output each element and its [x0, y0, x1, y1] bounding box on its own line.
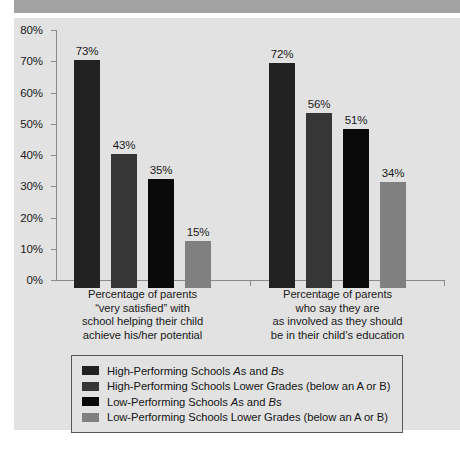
legend-item-label: Low-Performing Schools Lower Grades (bel…	[107, 411, 388, 423]
category-label-line: “very satisfied” with	[52, 302, 233, 316]
bar-value-label: 73%	[76, 45, 99, 57]
x-axis-tick	[250, 280, 251, 286]
y-axis-tick-label: 70%	[20, 55, 43, 67]
bar-value-label: 72%	[271, 48, 294, 60]
y-axis-tick-label: 10%	[20, 243, 43, 255]
bar: 73%	[74, 60, 100, 288]
y-axis-tick-label: 50%	[20, 118, 43, 130]
bar-value-label: 34%	[382, 167, 405, 179]
bar-value-label: 43%	[113, 139, 136, 151]
y-axis-tick: 20%	[51, 218, 56, 219]
bar-value-label: 56%	[308, 98, 331, 110]
legend-swatch	[82, 397, 99, 406]
y-axis-tick: 80%	[51, 30, 56, 31]
legend-swatch	[82, 366, 99, 375]
legend-item[interactable]: High-Performing Schools As and Bs	[82, 363, 394, 379]
category-label-line: achieve his/her potential	[52, 329, 233, 343]
bar: 51%	[343, 129, 369, 288]
bar: 35%	[148, 179, 174, 288]
y-axis-tick: 0%	[51, 280, 56, 281]
bar: 15%	[185, 241, 211, 288]
bar: 56%	[306, 113, 332, 288]
chart-panel: 0%10%20%30%40%50%60%70%80% 73%43%35%15%7…	[14, 18, 460, 430]
y-axis-tick: 10%	[51, 249, 56, 250]
y-axis-tick-label: 40%	[20, 149, 43, 161]
category-label-line: who say they are	[247, 302, 428, 316]
category-label-line: Percentage of parents	[52, 288, 233, 302]
legend-item-label: Low-Performing Schools As and Bs	[107, 396, 281, 408]
x-axis-tick	[444, 280, 445, 286]
legend-item[interactable]: Low-Performing Schools Lower Grades (bel…	[82, 410, 394, 426]
header-band	[14, 0, 460, 13]
y-axis-tick: 50%	[51, 124, 56, 125]
y-axis-tick: 60%	[51, 93, 56, 94]
y-axis-tick: 30%	[51, 186, 56, 187]
y-axis-tick-label: 60%	[20, 87, 43, 99]
bar: 43%	[111, 154, 137, 288]
bar: 34%	[380, 182, 406, 288]
category-label-line: be in their child’s education	[247, 329, 428, 343]
y-axis-tick: 40%	[51, 155, 56, 156]
legend-swatch	[82, 413, 99, 422]
legend-item[interactable]: High-Performing Schools Lower Grades (be…	[82, 379, 394, 395]
bar-value-label: 51%	[345, 114, 368, 126]
legend-swatch	[82, 382, 99, 391]
plot-area: 0%10%20%30%40%50%60%70%80% 73%43%35%15%7…	[56, 30, 446, 288]
category-label-line: as involved as they should	[247, 315, 428, 329]
category-label-line: Percentage of parents	[247, 288, 428, 302]
y-axis-line	[56, 30, 57, 280]
category-label: Percentage of parentswho say they areas …	[247, 288, 428, 342]
y-axis-tick-label: 30%	[20, 180, 43, 192]
category-label-line: school helping their child	[52, 315, 233, 329]
y-axis-tick-label: 20%	[20, 212, 43, 224]
y-axis-tick: 70%	[51, 61, 56, 62]
legend-item-label: High-Performing Schools As and Bs	[107, 365, 284, 377]
bar: 72%	[269, 63, 295, 288]
category-label: Percentage of parents“very satisfied” wi…	[52, 288, 233, 342]
bar-value-label: 15%	[187, 226, 210, 238]
y-axis-tick-label: 80%	[20, 24, 43, 36]
chart-figure: 0%10%20%30%40%50%60%70%80% 73%43%35%15%7…	[0, 0, 460, 450]
bar-value-label: 35%	[150, 164, 173, 176]
legend-box: High-Performing Schools As and BsHigh-Pe…	[71, 355, 403, 433]
legend-item-label: High-Performing Schools Lower Grades (be…	[107, 380, 390, 392]
legend-item[interactable]: Low-Performing Schools As and Bs	[82, 394, 394, 410]
y-axis-tick-label: 0%	[27, 274, 43, 286]
